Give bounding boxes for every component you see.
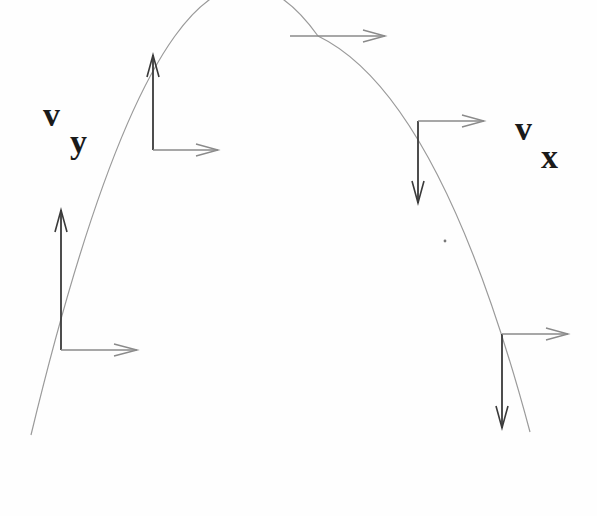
- projectile-diagram: v y v x: [0, 0, 597, 516]
- label-vx-subscript: x: [541, 140, 558, 174]
- trajectory-curve: [31, 0, 530, 435]
- label-vx-main: v: [515, 112, 532, 146]
- velocity-vector-launch: [55, 210, 137, 356]
- velocity-vector-falling: [412, 115, 484, 203]
- diagram-canvas: [0, 0, 597, 516]
- scan-speck: [444, 240, 447, 243]
- velocity-vector-apex: [290, 30, 385, 42]
- label-vy-main: v: [43, 98, 60, 132]
- velocity-vector-rising: [147, 55, 218, 156]
- velocity-vector-landing: [496, 328, 568, 428]
- label-vy-subscript: y: [70, 125, 87, 159]
